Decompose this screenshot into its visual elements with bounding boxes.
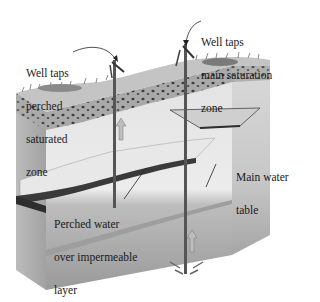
- callout-arrow-right-well: [186, 21, 201, 42]
- label-line: saturated: [26, 134, 69, 145]
- label-line: zone: [26, 167, 69, 178]
- label-line: Perched water: [54, 219, 137, 230]
- label-line: perched: [26, 101, 69, 112]
- label-line: zone: [201, 103, 272, 114]
- label-line: table: [236, 205, 289, 216]
- label-line: Main water: [236, 172, 289, 183]
- label-main-well: Well taps main saturation zone: [201, 15, 272, 125]
- label-line: Well taps: [26, 68, 69, 79]
- label-perched-water: Perched water over impermeable layer: [54, 197, 137, 302]
- arrowhead: [183, 40, 189, 46]
- label-line: layer: [54, 285, 137, 296]
- label-line: Well taps: [201, 37, 272, 48]
- label-line: over impermeable: [54, 252, 137, 263]
- label-perched-well: Well taps perched saturated zone: [26, 46, 69, 189]
- label-main-water-table: Main water table: [236, 150, 289, 227]
- label-line: main saturation: [201, 70, 272, 81]
- callout-arrow-left-well: [73, 47, 116, 60]
